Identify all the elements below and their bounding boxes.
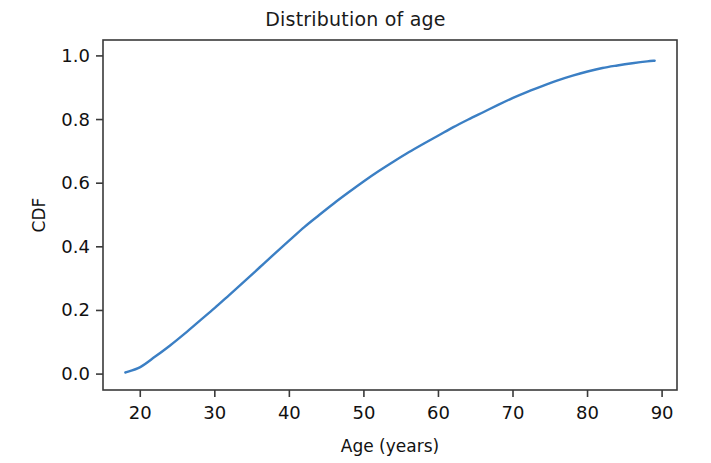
x-tick-label: 70	[502, 402, 525, 423]
x-tick-label: 20	[129, 402, 152, 423]
y-tick-label: 1.0	[61, 45, 90, 66]
x-tick-label: 30	[203, 402, 226, 423]
y-tick-label: 0.0	[61, 363, 90, 384]
x-tick-label: 60	[427, 402, 450, 423]
x-tick-label: 80	[576, 402, 599, 423]
y-axis-title: CDF	[29, 198, 49, 233]
y-tick-label: 0.2	[61, 299, 90, 320]
figure-canvas: Distribution of age 20304050607080900.00…	[0, 0, 711, 463]
x-axis-title: Age (years)	[341, 436, 439, 456]
x-tick-label: 90	[651, 402, 674, 423]
x-tick-label: 40	[278, 402, 301, 423]
x-tick-label: 50	[352, 402, 375, 423]
y-tick-label: 0.6	[61, 172, 90, 193]
y-tick-label: 0.4	[61, 236, 90, 257]
axes-frame	[103, 40, 677, 390]
data-line-series-0	[125, 61, 654, 373]
y-tick-label: 0.8	[61, 109, 90, 130]
chart-plot: 20304050607080900.00.20.40.60.81.0Age (y…	[0, 0, 711, 463]
